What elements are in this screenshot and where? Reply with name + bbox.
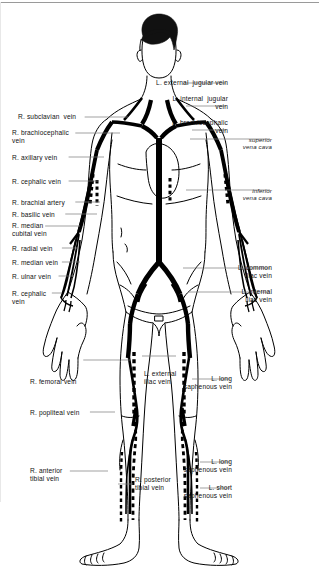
label-l-long-saphenous-vein-thigh: L. long saphenous vein bbox=[184, 375, 232, 390]
hip-right bbox=[192, 252, 205, 312]
hip-left bbox=[113, 252, 126, 312]
label-r-cephalic-vein-lower: R. cephalic vein bbox=[12, 290, 46, 305]
hand-right bbox=[232, 292, 275, 380]
pectoral-left bbox=[118, 164, 146, 170]
label-r-anterior-tibial-vein: R. anterior tibial vein bbox=[30, 467, 62, 482]
costal-left bbox=[117, 196, 152, 204]
label-l-long-saphenous-vein-leg: L. long saphenous vein bbox=[184, 458, 232, 473]
iliac-crest-right bbox=[187, 262, 201, 284]
label-r-posterior-tibial-vein: R. posterior tibial vein bbox=[135, 476, 171, 491]
label-r-basilic-vein: R. basilic vein bbox=[12, 211, 55, 219]
label-r-ulnar-vein: R. ulnar vein bbox=[12, 273, 51, 281]
label-r-median-vein: R. median vein bbox=[12, 259, 58, 267]
r-hand-venous-arch bbox=[61, 298, 73, 312]
abdomen-line bbox=[128, 306, 190, 314]
toes-right bbox=[214, 553, 234, 565]
label-r-femoral-vein: R. femoral vein bbox=[30, 378, 77, 386]
r-internal-jugular-vein-vessel bbox=[142, 100, 151, 124]
ear-left bbox=[137, 50, 142, 61]
ear-right bbox=[176, 50, 181, 61]
label-superior-vena-cava: superior vena cava bbox=[243, 136, 272, 150]
shoulder-left bbox=[107, 99, 141, 119]
label-r-median-cubital-vein: R. median cubital vein bbox=[12, 222, 47, 237]
arm-inner-left bbox=[87, 140, 112, 294]
l-external-iliac-vein-vessel bbox=[180, 294, 188, 324]
l-femoral-vein-vessel bbox=[188, 324, 190, 358]
label-inferior-vena-cava: inferior vena cava bbox=[243, 187, 272, 201]
figure-page: R. subclavian veinR. brachiocephalic vei… bbox=[0, 0, 319, 585]
label-r-radial-vein: R. radial vein bbox=[12, 245, 53, 253]
label-r-brachial-artery: R. brachial artery bbox=[12, 199, 65, 207]
label-l-internal-iliac-vein: L. internal iliac vein bbox=[241, 288, 272, 303]
pubis-marker bbox=[155, 316, 163, 321]
tick-a bbox=[121, 228, 122, 237]
label-r-cephalic-vein-upper: R. cephalic vein bbox=[12, 178, 61, 186]
neck-left bbox=[141, 76, 147, 99]
r-brachiocephalic-vein-vessel bbox=[142, 126, 157, 138]
foot-right bbox=[179, 520, 239, 565]
label-l-common-iliac-vein: L. common iliac vein bbox=[238, 264, 272, 279]
label-r-axillary-vein: R. axillary vein bbox=[12, 154, 57, 162]
r-posterior-tibial-vein-vessel bbox=[121, 452, 122, 524]
toes-left bbox=[85, 553, 105, 565]
hand-left bbox=[43, 292, 86, 380]
label-r-subclavian-vein: R. subclavian vein bbox=[18, 113, 76, 121]
torso-right bbox=[205, 133, 208, 252]
label-l-internal-jugular-vein: L. internal jugular vein bbox=[173, 95, 228, 110]
pectoral-right bbox=[172, 164, 200, 170]
label-r-brachiocephalic-vein: R. brachiocephalic vein bbox=[12, 129, 69, 144]
label-l-external-iliac-vein: L. external iliac vein bbox=[144, 370, 176, 385]
label-l-short-saphenous-vein: L. short saphenous vein bbox=[184, 484, 232, 499]
iliac-crest-left bbox=[117, 262, 131, 284]
foot-left bbox=[80, 520, 140, 565]
label-l-brachiocephalic-vein: L. brachiocephalic vein bbox=[172, 119, 228, 134]
torso-left bbox=[110, 133, 113, 252]
r-subclavian-vein-vessel bbox=[112, 122, 142, 126]
heart-outline bbox=[146, 143, 179, 198]
label-r-popliteal-vein: R. popliteal vein bbox=[30, 409, 79, 417]
arm-inner-right bbox=[206, 140, 231, 294]
r-external-iliac-vein-vessel bbox=[130, 294, 138, 324]
crotch bbox=[153, 323, 165, 336]
label-l-external-jugular-vein: L. external jugular vein bbox=[156, 79, 228, 87]
tick-b bbox=[125, 244, 127, 252]
r-femoral-vein-vessel bbox=[128, 324, 130, 358]
